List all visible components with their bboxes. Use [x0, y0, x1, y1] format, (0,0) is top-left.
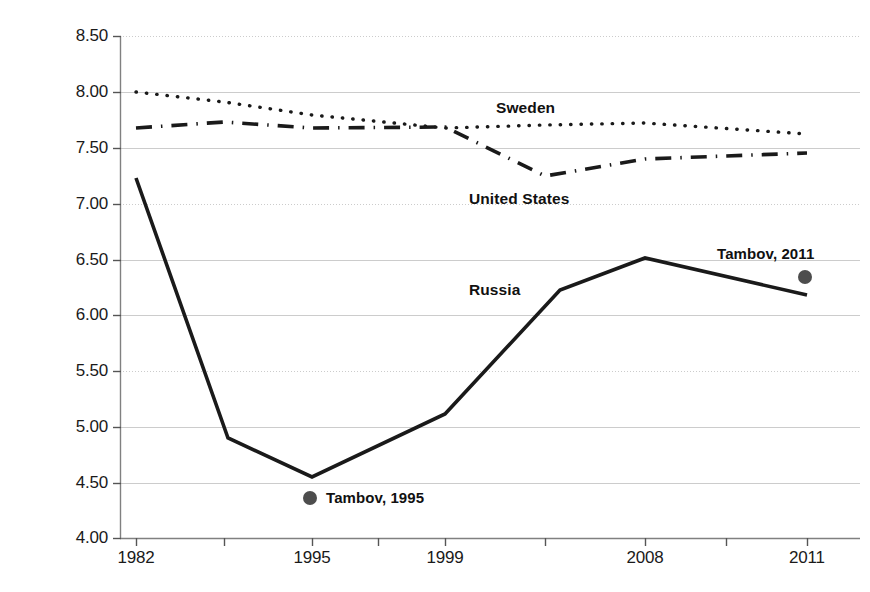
annotation-tambov-1995: Tambov, 1995 [326, 489, 424, 506]
series-label-sweden: Sweden [496, 99, 555, 117]
series-line-russia [136, 178, 807, 477]
data-point-tambov-1995 [303, 491, 317, 505]
series-label-russia: Russia [469, 281, 520, 299]
series-line-sweden [136, 92, 807, 134]
series-label-united-states: United States [469, 190, 569, 208]
chart-plot-svg [0, 0, 870, 592]
data-point-tambov-2011 [798, 270, 812, 284]
chart-container: Life Satisfaction Mean Score 8.50 8.00 7… [0, 0, 870, 592]
annotation-tambov-2011: Tambov, 2011 [717, 245, 814, 262]
